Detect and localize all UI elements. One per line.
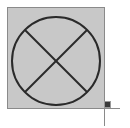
- diagram-canvas: [0, 0, 130, 128]
- resize-handle[interactable]: [105, 102, 111, 108]
- selection-box[interactable]: [8, 8, 105, 109]
- diagram-svg: [0, 0, 130, 128]
